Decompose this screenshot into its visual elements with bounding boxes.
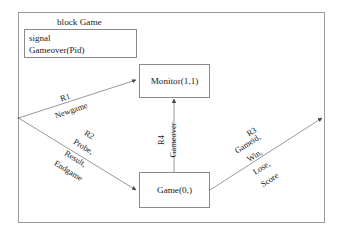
signal-declaration-name: Gameover(Pid) xyxy=(29,45,84,55)
block-frame-title: block Game xyxy=(57,17,102,27)
channel-r4-name: R4 xyxy=(157,134,166,145)
channel-r3-signal-3: Score xyxy=(259,171,280,189)
sdl-block-diagram: block Game signal Gameover(Pid) R1 Newga… xyxy=(0,0,341,236)
channel-r4-signal-0: Gameover xyxy=(169,122,178,157)
block-monitor-label: Monitor(1,1) xyxy=(151,76,199,86)
diagram-canvas: block Game signal Gameover(Pid) R1 Newga… xyxy=(0,0,341,236)
channel-r2-name: R2 xyxy=(83,128,96,141)
block-game-label: Game(0,) xyxy=(157,185,192,195)
signal-keyword: signal xyxy=(29,33,51,43)
channel-r1-signal-0: Newgame xyxy=(54,101,89,120)
